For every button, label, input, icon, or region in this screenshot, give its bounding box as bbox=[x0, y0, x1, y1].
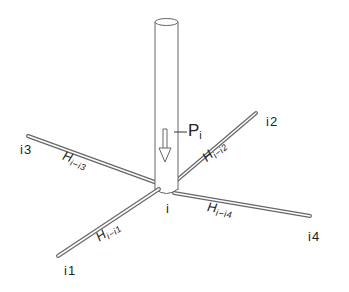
member-i4 bbox=[174, 193, 310, 216]
center-node-label: i bbox=[166, 202, 170, 215]
column bbox=[155, 19, 178, 194]
diagram-graphic bbox=[0, 0, 349, 292]
node-label-i1: i1 bbox=[64, 264, 76, 277]
node-label-i2: i2 bbox=[266, 115, 278, 128]
member-i3 bbox=[28, 136, 160, 184]
load-label-main: P bbox=[188, 121, 199, 140]
node-label-i3: i3 bbox=[20, 143, 32, 156]
load-label-subscript: i bbox=[199, 129, 201, 141]
node-label-i4: i4 bbox=[308, 230, 320, 243]
load-label: Pi bbox=[188, 122, 202, 141]
structural-node-diagram: Pi i i3 i2 i1 i4 Hi−i3 Hi−i2 Hi−i1 Hi−i4 bbox=[0, 0, 349, 292]
